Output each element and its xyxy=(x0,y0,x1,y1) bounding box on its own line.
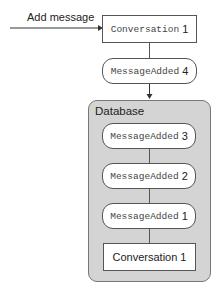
add-message-arrow-icon xyxy=(10,24,103,32)
pending-event-pill: MessageAdded 4 xyxy=(102,58,197,84)
conversation-version: 1 xyxy=(182,23,188,35)
conversation-type-label: Conversation xyxy=(111,24,179,35)
add-message-label: Add message xyxy=(27,11,94,23)
event-type-label: MessageAdded xyxy=(110,211,178,222)
arrow-down-icon xyxy=(146,84,153,100)
event-version: 2 xyxy=(182,170,188,182)
stored-event-pill: MessageAdded 1 xyxy=(102,203,196,229)
stored-event-pill: MessageAdded 3 xyxy=(102,123,196,149)
event-type-label: MessageAdded xyxy=(111,66,179,77)
stored-conversation-box: Conversation 1 xyxy=(103,243,196,271)
connector-line xyxy=(149,43,150,58)
event-version: 3 xyxy=(182,130,188,142)
event-type-label: MessageAdded xyxy=(110,131,178,142)
conversation-box-top: Conversation 1 xyxy=(102,15,197,43)
stored-conversation-label: Conversation 1 xyxy=(113,251,187,263)
event-version: 1 xyxy=(182,210,188,222)
event-version: 4 xyxy=(182,65,188,77)
stored-event-pill: MessageAdded 2 xyxy=(102,163,196,189)
database-title: Database xyxy=(95,105,144,117)
event-type-label: MessageAdded xyxy=(110,171,178,182)
